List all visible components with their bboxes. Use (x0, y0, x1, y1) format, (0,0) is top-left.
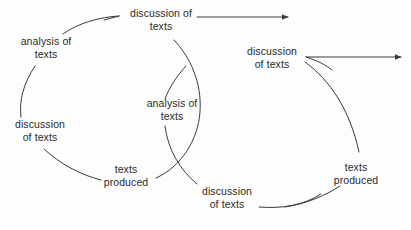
arc-middle-lower (165, 126, 197, 184)
label-texts-produced-right: texts produced (328, 161, 384, 187)
diagram-canvas: analysis of texts discussion of texts di… (0, 0, 411, 230)
label-analysis-of-texts-left: analysis of texts (10, 35, 82, 61)
label-analysis-of-texts-middle: analysis of texts (140, 97, 204, 123)
label-discussion-of-texts-right: discussion of texts (239, 45, 305, 71)
arc-left-lower-left (44, 149, 101, 180)
arc-middle-upper (165, 66, 186, 99)
label-discussion-of-texts-left: discussion of texts (4, 118, 76, 144)
label-discussion-of-texts-top: discussion of texts (120, 7, 202, 33)
arc-right-upper (305, 62, 359, 152)
arc-right-lower (285, 186, 340, 207)
label-texts-produced-left: texts produced (98, 163, 154, 189)
stub-right-in (306, 57, 332, 70)
label-discussion-of-texts-bottom: discussion of texts (194, 185, 260, 211)
arc-left-upper-left (21, 66, 35, 117)
